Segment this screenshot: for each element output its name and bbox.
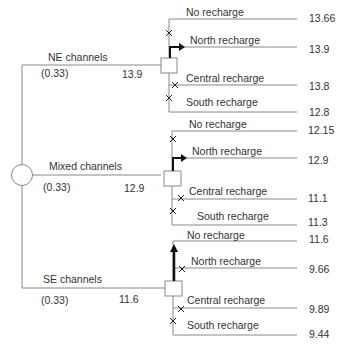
option-value: 11.1 <box>308 192 328 204</box>
channel-probability: (0.33) <box>43 181 70 193</box>
option-value: 11.3 <box>308 216 328 228</box>
channel-branch-se: SE channels (0.33) 11.6 No recharge Nort… <box>22 229 330 340</box>
option-label: North recharge <box>191 255 261 267</box>
channel-label: Mixed channels <box>49 160 122 172</box>
option-label: Central recharge <box>187 294 265 306</box>
channel-probability: (0.33) <box>41 294 68 306</box>
option-label: North recharge <box>190 34 260 46</box>
option-value: 9.66 <box>309 263 330 275</box>
option-value: 13.66 <box>309 12 335 24</box>
option-label: Central recharge <box>186 72 264 84</box>
option-value: 11.6 <box>309 233 329 245</box>
channel-label: SE channels <box>43 273 102 285</box>
channel-value: 13.9 <box>122 68 143 80</box>
arrow-right-icon <box>173 154 187 171</box>
channel-branch-ne: NE channels (0.33) 13.9 No recharge Nort… <box>22 6 335 118</box>
option-label: South recharge <box>186 96 258 108</box>
channel-probability: (0.33) <box>41 67 68 79</box>
option-value: 13.9 <box>309 43 330 55</box>
option-value: 12.8 <box>309 106 330 118</box>
channel-branch-mixed: Mixed channels (0.33) 12.9 No recharge N… <box>32 118 334 228</box>
channel-value: 12.9 <box>124 182 145 194</box>
channel-label: NE channels <box>48 51 108 63</box>
channel-value: 11.6 <box>119 293 139 305</box>
option-value: 12.15 <box>308 124 334 136</box>
decision-box-icon <box>161 58 177 73</box>
option-label: North recharge <box>192 145 262 157</box>
option-value: 9.89 <box>309 303 330 315</box>
option-label: No recharge <box>189 118 247 130</box>
option-label: South recharge <box>187 319 259 331</box>
option-label: No recharge <box>187 229 245 241</box>
arrow-right-icon <box>170 43 185 58</box>
option-value: 12.9 <box>308 154 329 166</box>
option-label: South recharge <box>197 210 269 222</box>
option-value: 13.8 <box>309 80 330 92</box>
arrow-up-icon <box>170 244 178 281</box>
decision-box-icon <box>165 281 182 296</box>
option-value: 9.44 <box>309 328 330 340</box>
decision-box-icon <box>164 171 181 186</box>
option-label: Central recharge <box>189 185 267 197</box>
option-label: No recharge <box>186 6 244 18</box>
chance-node-icon <box>12 165 33 186</box>
decision-tree-diagram: NE channels (0.33) 13.9 No recharge Nort… <box>0 0 347 351</box>
